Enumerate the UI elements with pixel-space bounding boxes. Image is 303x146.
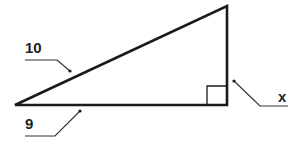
right-angle-marker: [207, 86, 227, 105]
right-triangle-diagram: [0, 0, 303, 146]
hypotenuse-label: 10: [25, 40, 42, 55]
height-leader-dot: [232, 79, 235, 82]
base-leader-dot: [78, 109, 81, 112]
hypotenuse-leader-line: [25, 60, 70, 71]
height-label: x: [278, 89, 286, 104]
base-label: 9: [25, 116, 33, 131]
triangle: [15, 6, 227, 105]
hypotenuse-leader-dot: [68, 69, 71, 72]
